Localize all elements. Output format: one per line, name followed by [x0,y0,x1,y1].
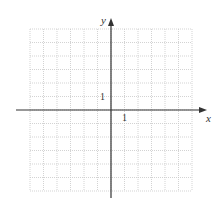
x-axis-label: x [205,112,211,124]
coordinate-plane: x y 1 1 [0,0,216,202]
x-unit-label: 1 [122,112,127,123]
y-axis-label: y [100,14,106,26]
y-unit-label: 1 [100,91,105,102]
y-axis-arrow-icon [108,18,114,26]
